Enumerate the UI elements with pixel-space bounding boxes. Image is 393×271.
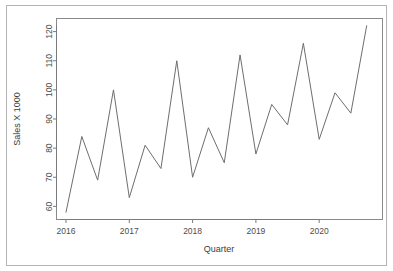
- series-line-sales: [66, 26, 367, 212]
- line-chart: 60708090100110120 20162017201820192020 Q…: [0, 0, 393, 271]
- x-tick-label: 2019: [246, 226, 265, 236]
- x-tick-label: 2018: [183, 226, 202, 236]
- y-tick-label: 100: [44, 83, 54, 97]
- y-axis-ticks: 60708090100110120: [44, 24, 57, 211]
- x-tick-label: 2017: [120, 226, 139, 236]
- x-tick-label: 2016: [57, 226, 76, 236]
- y-tick-label: 90: [44, 114, 54, 124]
- y-tick-label: 120: [44, 24, 54, 38]
- x-axis-ticks: 20162017201820192020: [57, 220, 329, 236]
- y-tick-label: 110: [44, 54, 54, 68]
- plot-frame: [57, 19, 383, 220]
- y-tick-label: 70: [44, 172, 54, 182]
- y-axis-title: Sales X 1000: [12, 92, 22, 146]
- x-axis-title: Quarter: [204, 244, 235, 254]
- chart-figure: 60708090100110120 20162017201820192020 Q…: [0, 0, 393, 271]
- x-tick-label: 2020: [310, 226, 329, 236]
- y-tick-label: 80: [44, 143, 54, 153]
- y-tick-label: 60: [44, 201, 54, 211]
